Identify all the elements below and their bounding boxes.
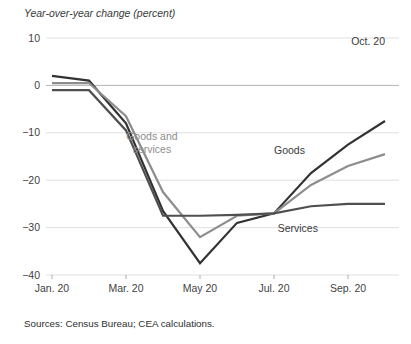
y-axis-tick-label: −20 — [22, 174, 40, 186]
x-axis-tick-label: Mar. 20 — [108, 282, 143, 294]
source-note: Sources: Census Bureau; CEA calculations… — [24, 318, 215, 329]
chart-axis-title: Year-over-year change (percent) — [24, 7, 175, 19]
x-axis-tick-label: May 20 — [183, 282, 218, 294]
x-axis-tick-label: Jan. 20 — [35, 282, 70, 294]
y-axis-tick-label: −40 — [22, 269, 40, 281]
series-label-services: Services — [278, 222, 318, 234]
x-axis-tick-label: Jul. 20 — [259, 282, 290, 294]
y-axis-tick-label: 10 — [28, 32, 40, 44]
series-label-goods-and-services: Goods and — [126, 130, 178, 142]
x-axis-tick-label: Sep. 20 — [330, 282, 366, 294]
y-axis-tick-label: −30 — [22, 221, 40, 233]
annotation-label: Oct. 20 — [351, 35, 385, 47]
year-over-year-change-line-chart: Year-over-year change (percent) 100−10−2… — [0, 0, 411, 344]
series-label-goods-and-services: services — [133, 143, 172, 155]
chart-annotations: Oct. 20 — [351, 35, 385, 47]
y-axis-tick-label: −10 — [22, 126, 40, 138]
series-label-goods: Goods — [274, 144, 305, 156]
y-axis-tick-label: 0 — [34, 79, 40, 91]
